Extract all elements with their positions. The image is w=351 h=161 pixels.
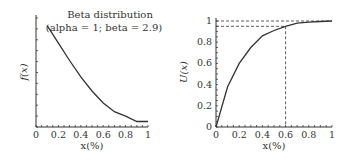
chart-title: Beta distribution (67, 9, 153, 20)
chart-canvas: 00.20.40.60.81 x(%) f(x) Beta distributi… (0, 0, 351, 161)
x-tick-label: 0 (33, 129, 39, 140)
x-axis-label: x(%) (263, 140, 286, 151)
x-axis-label: x(%) (81, 140, 104, 151)
y-tick-label: 0.2 (197, 100, 212, 111)
y-tick-label: 0.6 (197, 57, 212, 68)
x-tick-label: 0.6 (278, 129, 293, 140)
x-tick-label: 0.8 (301, 129, 316, 140)
right-chart: 00.20.40.60.81 00.20.40.60.81 x(%) U(x) (178, 15, 335, 151)
utility-curve (216, 21, 332, 127)
y-tick-labels: 00.20.40.60.81 (197, 15, 212, 132)
chart-subtitle: (alpha = 1; beta = 2.9) (46, 22, 162, 33)
left-chart: 00.20.40.60.81 x(%) f(x) Beta distributi… (18, 9, 162, 151)
beta-pdf-curve (47, 26, 148, 122)
y-tick-label: 1 (206, 15, 212, 26)
x-tick-labels: 00.20.40.60.81 (213, 129, 335, 140)
x-tick-label: 0.2 (51, 129, 66, 140)
x-tick-label: 0.8 (118, 129, 133, 140)
x-tick-label: 1 (145, 129, 151, 140)
y-axis-label: U(x) (178, 61, 189, 83)
x-tick-label: 0.4 (255, 129, 270, 140)
x-tick-labels: 00.20.40.60.81 (33, 129, 151, 140)
x-tick-label: 0.4 (73, 129, 88, 140)
x-tick-label: 0.2 (232, 129, 247, 140)
x-tick-label: 1 (329, 129, 335, 140)
y-axis-label: f(x) (18, 63, 29, 81)
y-tick-label: 0 (206, 121, 212, 132)
x-tick-label: 0.6 (96, 129, 111, 140)
y-tick-label: 0.4 (197, 79, 212, 90)
y-tick-label: 0.8 (197, 36, 212, 47)
x-tick-label: 0 (213, 129, 219, 140)
